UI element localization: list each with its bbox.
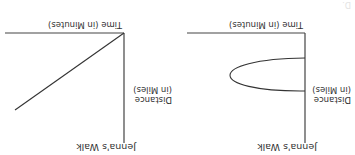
graph-a-ylabel: Distance (in Miles) (133, 85, 172, 105)
graph-b-title: Jenna's Walk (257, 142, 317, 153)
ylabel-line1: Distance (312, 95, 351, 105)
ylabel-line2: (in Miles) (312, 85, 351, 95)
ylabel-line2: (in Miles) (133, 85, 172, 95)
ylabel-line1: Distance (133, 95, 172, 105)
figure: D. Jenna's Walk Distance (in Miles) Time… (0, 0, 355, 155)
graph-b-xlabel: Time (in Minutes) (229, 20, 303, 30)
loop-curve (230, 58, 305, 91)
linear-curve (15, 33, 124, 110)
graph-a-title: Jenna's Walk (76, 142, 136, 153)
graph-b-ylabel: Distance (in Miles) (312, 85, 351, 105)
graph-a-xlabel: Time (in Minutes) (48, 20, 122, 30)
graph-a: Jenna's Walk Distance (in Miles) Time (i… (0, 0, 180, 155)
graph-b: D. Jenna's Walk Distance (in Miles) Time… (175, 0, 355, 155)
